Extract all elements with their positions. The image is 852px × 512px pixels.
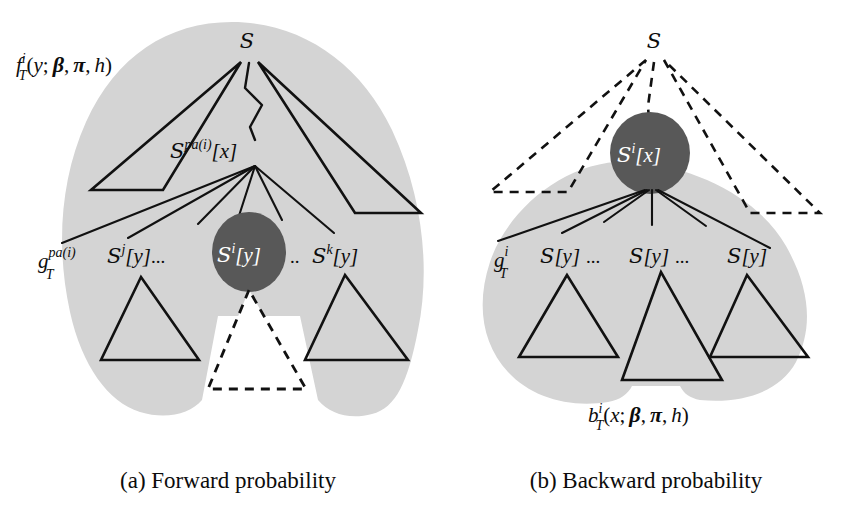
child-b0-bracket: [y] <box>554 244 580 268</box>
child-b1-ellipsis: ... <box>675 246 689 267</box>
formula-b-sup: i <box>599 401 603 416</box>
panel-b-blob <box>483 162 807 404</box>
formula-a-beta: β <box>52 52 65 77</box>
child-b2-bracket: [y] <box>741 244 767 268</box>
formula-b-open: ( <box>603 403 610 427</box>
panel-a-child-label-2: Sk[y] <box>312 242 358 268</box>
child-b1-base: S <box>629 244 643 268</box>
formula-b-comma1: , <box>641 403 646 427</box>
formula-a-open: ( <box>27 53 34 77</box>
child-a1-ellipsis: .. <box>290 246 300 267</box>
child-b1-bracket: [y] <box>643 244 669 268</box>
formula-a-semicolon: ; <box>43 53 49 77</box>
panel-b-child-label-0: S[y]... <box>540 244 600 268</box>
panel-a-group: S fiT(y;β,π,h) Spa(i)[x] <box>16 22 424 416</box>
formula-b-h: h <box>671 403 682 427</box>
forward-backward-diagram: S fiT(y;β,π,h) Spa(i)[x] <box>0 0 852 512</box>
panel-b-focus-node-label: Si[x] <box>617 141 661 167</box>
child-a1-bracket: [y] <box>235 243 261 267</box>
child-a1-base: S <box>217 243 231 267</box>
svg-text:fiT(y;β,π,h): fiT(y;β,π,h) <box>16 51 112 83</box>
panel-b-group: S Si[x] giT <box>483 29 820 433</box>
formula-b-close: ) <box>682 403 689 427</box>
svg-text:S[y]: S[y] <box>727 244 767 268</box>
g-a-sup: pa(i) <box>48 245 77 261</box>
parent-a-sup: pa(i) <box>183 137 212 153</box>
svg-text:Si[x]: Si[x] <box>617 141 661 167</box>
formula-a-sup: i <box>22 51 26 66</box>
panel-b-child-label-1: S[y]... <box>629 244 689 268</box>
child-b0-base: S <box>540 244 554 268</box>
child-a2-bracket: [y] <box>333 244 359 268</box>
figure-root: S fiT(y;β,π,h) Spa(i)[x] <box>0 0 852 512</box>
formula-b-beta: β <box>628 402 641 427</box>
formula-b-comma2: , <box>662 403 667 427</box>
g-b-sup: i <box>505 244 509 259</box>
child-b0-ellipsis: ... <box>586 246 600 267</box>
svg-text:biT(x;β,π,h): biT(x;β,π,h) <box>588 401 689 433</box>
formula-b-semicolon: ; <box>620 403 626 427</box>
g-b-sub: T <box>499 266 508 281</box>
formula-a-comma1: , <box>64 53 69 77</box>
child-a0-bracket: [y] <box>125 244 151 268</box>
child-a0-ellipsis: ... <box>151 246 165 267</box>
parent-a-base: S <box>170 139 184 163</box>
svg-text:S[y]...: S[y]... <box>540 244 600 268</box>
formula-a-arg: y <box>32 53 44 77</box>
panel-a-formula: fiT(y;β,π,h) <box>16 51 112 83</box>
panel-a-child-label-0: Sj[y]... <box>107 242 165 268</box>
g-a-sub: T <box>46 267 55 282</box>
formula-a-close: ) <box>105 53 112 77</box>
formula-a-comma2: , <box>85 53 90 77</box>
svg-text:S[y]...: S[y]... <box>629 244 689 268</box>
panel-b-root-label: S <box>647 29 661 53</box>
parent-a-bracket: [x] <box>212 139 238 163</box>
child-b2-base: S <box>727 244 741 268</box>
focus-b-base: S <box>617 143 631 167</box>
svg-text:Sk[y]: Sk[y] <box>312 242 358 268</box>
formula-a-h: h <box>95 53 106 77</box>
svg-text:Si[y]: Si[y] <box>217 241 261 267</box>
child-a2-base: S <box>312 244 326 268</box>
child-a0-base: S <box>107 244 121 268</box>
focus-b-bracket: [x] <box>635 143 661 167</box>
panel-a-root-label: S <box>240 29 254 53</box>
panel-b-formula: biT(x;β,π,h) <box>588 401 689 433</box>
panel-b-child-label-2: S[y] <box>727 244 767 268</box>
svg-text:Sj[y]...: Sj[y]... <box>107 242 165 268</box>
panel-a-caption: (a) Forward probability <box>120 468 336 493</box>
panel-b-caption: (b) Backward probability <box>530 468 763 493</box>
